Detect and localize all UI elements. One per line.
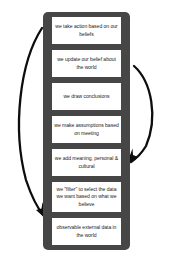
ladder-rung-label: we add meaning, personal & cultural <box>54 155 119 169</box>
ladder-rung: we draw conclusions <box>52 83 121 110</box>
ladder-rung: we take action based on our beliefs <box>52 17 121 44</box>
ladder-rung-label: we draw conclusions <box>54 93 119 100</box>
ladder-rung-label: observable external data in the world <box>54 224 119 238</box>
ladder-rung-label: we make assumptions based on meeting <box>54 122 119 136</box>
ladder-rung-label: we update our belief about the world <box>54 56 119 70</box>
ladder-body: we take action based on our beliefs we u… <box>43 12 130 250</box>
ladder-rung-label: we "filter" to select the data we want b… <box>54 186 119 208</box>
ladder-of-inference-diagram: we take action based on our beliefs we u… <box>0 0 169 260</box>
ladder-rung-label: we take action based on our beliefs <box>54 23 119 37</box>
ladder-rung: we add meaning, personal & cultural <box>52 149 121 176</box>
ladder-rung: we make assumptions based on meeting <box>52 116 121 143</box>
ladder-rung: we "filter" to select the data we want b… <box>52 182 121 212</box>
ladder-rungs: we take action based on our beliefs we u… <box>52 17 121 245</box>
ladder-rung: we update our belief about the world <box>52 50 121 77</box>
ladder-rung: observable external data in the world <box>52 218 121 245</box>
